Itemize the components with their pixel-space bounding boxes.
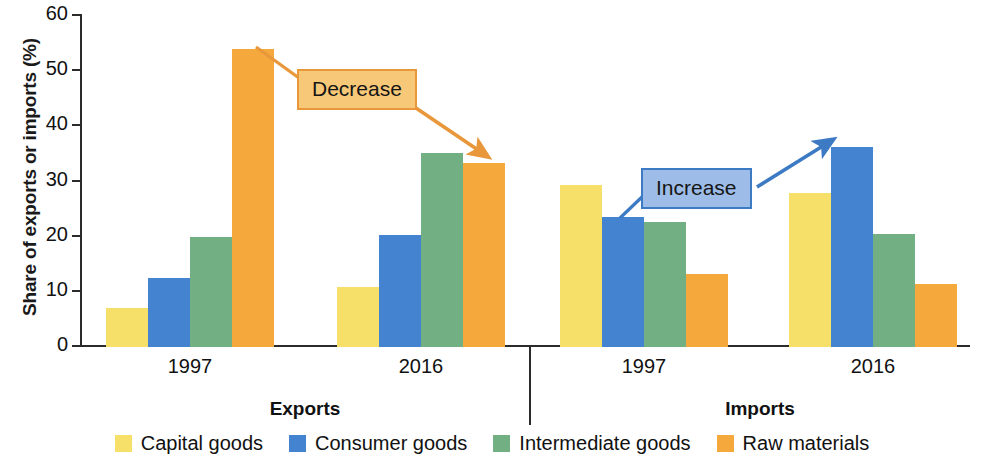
legend-item[interactable]: Capital goods <box>115 433 263 453</box>
legend-swatch-icon <box>115 435 132 452</box>
x-axis-year-label: 1997 <box>584 355 704 378</box>
bar <box>232 49 274 347</box>
bar <box>915 284 957 347</box>
bar <box>463 163 505 347</box>
x-axis-year-label: 1997 <box>130 355 250 378</box>
legend-label: Raw materials <box>743 433 870 453</box>
y-tick-label: 60 <box>22 3 68 23</box>
bar <box>789 193 831 347</box>
legend-label: Capital goods <box>141 433 263 453</box>
y-tick-label: 50 <box>22 58 68 78</box>
x-axis-group-label: Exports <box>185 398 425 420</box>
legend-swatch-icon <box>289 435 306 452</box>
bar <box>421 153 463 347</box>
bar <box>831 147 873 347</box>
y-tick-label: 20 <box>22 224 68 244</box>
y-tick-mark <box>72 69 81 71</box>
bar <box>873 234 915 347</box>
y-tick-mark <box>72 345 81 347</box>
bar <box>106 308 148 347</box>
y-tick-label: 10 <box>22 279 68 299</box>
bar <box>644 222 686 347</box>
y-tick-mark <box>72 180 81 182</box>
annotation-decrease: Decrease <box>297 69 417 110</box>
bar <box>190 237 232 347</box>
legend-swatch-icon <box>493 435 510 452</box>
x-axis-year-label: 2016 <box>361 355 481 378</box>
bar <box>686 274 728 347</box>
bar <box>337 287 379 347</box>
annotation-increase: Increase <box>641 168 752 209</box>
group-separator-line <box>529 347 531 425</box>
bar <box>148 278 190 347</box>
x-axis-group-label: Imports <box>640 398 880 420</box>
legend-label: Intermediate goods <box>519 433 690 453</box>
y-tick-mark <box>72 235 81 237</box>
x-axis-year-label: 2016 <box>813 355 933 378</box>
legend-label: Consumer goods <box>315 433 467 453</box>
y-tick-mark <box>72 290 81 292</box>
y-tick-label: 40 <box>22 113 68 133</box>
legend-swatch-icon <box>717 435 734 452</box>
y-tick-mark <box>72 124 81 126</box>
legend-item[interactable]: Intermediate goods <box>493 433 690 453</box>
bar <box>602 217 644 347</box>
legend-item[interactable]: Raw materials <box>717 433 870 453</box>
y-tick-label: 0 <box>22 334 68 354</box>
y-tick-mark <box>72 14 81 16</box>
bar-chart: Share of exports or imports (%) 60504030… <box>0 0 984 461</box>
legend: Capital goodsConsumer goodsIntermediate … <box>0 433 984 453</box>
y-tick-label: 30 <box>22 169 68 189</box>
bar <box>560 185 602 347</box>
bar <box>379 235 421 347</box>
legend-item[interactable]: Consumer goods <box>289 433 467 453</box>
